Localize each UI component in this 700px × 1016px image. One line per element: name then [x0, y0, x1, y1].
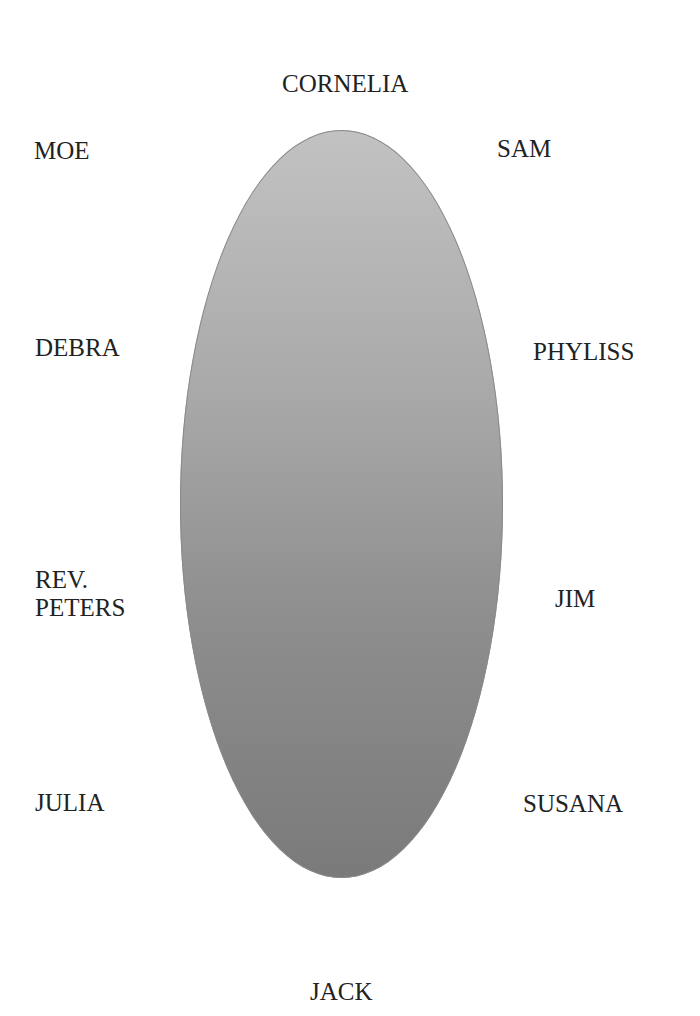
seat-cornelia: CORNELIA: [282, 70, 408, 98]
seat-phyliss: PHYLISS: [533, 338, 634, 366]
seat-moe: MOE: [34, 137, 90, 165]
seat-julia: JULIA: [35, 789, 104, 817]
seat-jack: JACK: [310, 978, 373, 1006]
seat-rev-peters-line1: REV.: [35, 566, 88, 594]
seat-jim: JIM: [555, 585, 595, 613]
oval-table: [180, 130, 503, 878]
seat-sam: SAM: [497, 135, 551, 163]
seat-debra: DEBRA: [35, 334, 120, 362]
seat-rev-peters-line2: PETERS: [35, 594, 125, 622]
seat-susana: SUSANA: [523, 790, 623, 818]
